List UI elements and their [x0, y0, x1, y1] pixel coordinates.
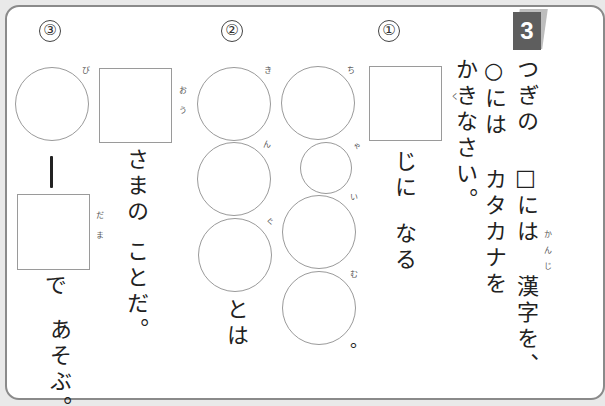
q1-kanji-box[interactable] — [369, 66, 442, 141]
q2-circle-3-furigana: ぐ — [264, 217, 272, 233]
q1-circle-4-furigana: む — [348, 270, 356, 286]
q2-ending: とは — [224, 298, 246, 350]
q3-text-1: さまの — [124, 148, 146, 226]
q2-circle-1-furigana: き — [262, 66, 270, 82]
question-1-number: ① — [378, 20, 400, 42]
q3-kanji-box-1[interactable] — [99, 68, 172, 143]
q1-text-2: なる — [392, 222, 414, 274]
q3-katakana-circle[interactable] — [15, 67, 89, 141]
q3-circle-furigana: び — [80, 66, 88, 82]
problem-number-badge: 3 — [513, 9, 545, 50]
furigana-kanji: かんじ — [542, 230, 550, 278]
q1-ending: 。 — [337, 342, 355, 364]
question-2-number: ② — [221, 20, 243, 42]
q3-kanji-box-2[interactable] — [17, 194, 90, 270]
q2-circle-2-furigana: ん — [261, 140, 269, 156]
instruction-line-2: ○には カタカナを — [482, 58, 504, 298]
q1-katakana-circle-2[interactable] — [300, 142, 352, 194]
q3-long-vowel-mark — [50, 156, 53, 188]
q1-katakana-circle-4[interactable] — [282, 271, 356, 345]
question-3-number: ③ — [39, 20, 61, 42]
q1-katakana-circle-1[interactable] — [281, 66, 355, 140]
q3-text-2: ことだ。 — [124, 240, 146, 344]
q1-text-1: じに — [392, 150, 414, 202]
instruction-line-3: かきなさい。 — [453, 58, 475, 214]
q3-text-4: あそぶ。 — [47, 318, 69, 406]
q2-katakana-circle-2[interactable] — [197, 142, 271, 216]
q1-furigana: く — [449, 92, 457, 108]
q1-katakana-circle-3[interactable] — [282, 195, 356, 269]
q3-kanji-box-2-furigana: だま — [94, 211, 102, 251]
q3-text-3: で — [42, 274, 64, 300]
q1-circle-2-furigana: ゃ — [350, 142, 358, 158]
problem-number: 3 — [513, 12, 541, 50]
instruction-line-1: つぎの □には 漢字を、 — [514, 58, 536, 379]
q3-kanji-box-1-furigana: おう — [177, 86, 185, 126]
q2-katakana-circle-1[interactable] — [197, 67, 271, 141]
q1-circle-3-furigana: い — [348, 193, 356, 209]
q1-circle-1-furigana: ち — [345, 66, 353, 82]
q2-katakana-circle-3[interactable] — [198, 218, 272, 292]
